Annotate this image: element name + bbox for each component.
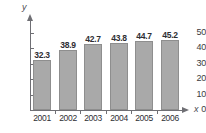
y-tick-label: 30 xyxy=(182,58,206,68)
y-tick-mark xyxy=(30,110,34,111)
bar xyxy=(59,50,77,110)
top-caption xyxy=(24,0,132,5)
bar-value-label: 32.3 xyxy=(27,50,57,60)
x-category-label: 2006 xyxy=(157,113,183,123)
x-category-label: 2002 xyxy=(55,113,81,123)
y-tick-mark xyxy=(30,48,34,49)
x-category-label: 2005 xyxy=(131,113,157,123)
y-tick-label: 10 xyxy=(182,89,206,99)
bar xyxy=(135,41,153,110)
bar xyxy=(33,60,51,110)
bar-value-label: 45.2 xyxy=(155,30,185,40)
x-category-label: 2001 xyxy=(29,113,55,123)
x-category-label: 2003 xyxy=(80,113,106,123)
y-tick-label: 40 xyxy=(182,42,206,52)
y-axis-label: y xyxy=(22,2,27,12)
bar xyxy=(161,40,179,110)
y-tick-label: 50 xyxy=(182,27,206,37)
y-axis-arrow-icon xyxy=(27,14,33,21)
bar xyxy=(84,44,102,110)
bar-chart: y x 01020304050 32.3200138.9200242.72003… xyxy=(0,0,206,133)
y-tick-label: 0 xyxy=(182,104,206,114)
bar xyxy=(110,43,128,110)
x-category-label: 2004 xyxy=(106,113,132,123)
y-tick-mark xyxy=(30,33,34,34)
y-tick-label: 20 xyxy=(182,73,206,83)
